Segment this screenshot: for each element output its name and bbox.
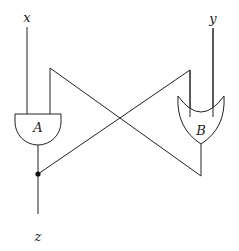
- logic-circuit-diagram: x y z A B: [0, 0, 239, 251]
- gate-label-a: A: [33, 121, 42, 134]
- gate-label-b: B: [196, 124, 206, 137]
- input-label-x: x: [23, 11, 30, 24]
- input-label-y: y: [209, 12, 216, 25]
- wire-gate-b-output-to-gate-a: [50, 68, 201, 176]
- junction-dot: [35, 171, 40, 176]
- output-label-z: z: [35, 230, 42, 243]
